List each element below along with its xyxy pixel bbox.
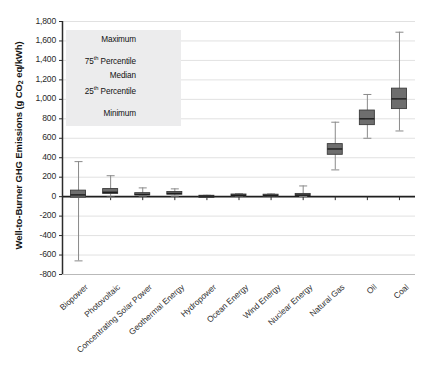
boxplot-nuclear-energy[interactable]	[295, 185, 310, 196]
boxplot-figure: Well-to-Burner GHG Emissions (g CO2 eq/k…	[0, 0, 423, 374]
legend-row-25th-percentile: 25th Percentile	[68, 85, 136, 96]
legend-row-minimum: Minimum	[68, 109, 136, 118]
boxplot-biopower[interactable]	[71, 161, 86, 261]
legend-row-median: Median	[68, 71, 136, 80]
box-rect	[71, 190, 86, 197]
boxplot-hydropower[interactable]	[199, 195, 214, 198]
boxplot-concentrating-solar-power[interactable]	[135, 187, 150, 196]
y-tick-label: -400	[22, 230, 56, 240]
y-tick-label: 400	[22, 152, 56, 162]
boxplot-wind-energy[interactable]	[263, 193, 278, 196]
boxplot-oil[interactable]	[359, 94, 374, 138]
y-tick-label: 1,400	[22, 54, 56, 64]
y-tick-label: 1,000	[22, 93, 56, 103]
legend-row-maximum: Maximum	[68, 35, 136, 44]
boxplot-ocean-energy[interactable]	[231, 193, 246, 196]
boxplot-photovoltaic[interactable]	[103, 175, 118, 197]
y-tick-label: 600	[22, 132, 56, 142]
y-tick-label: 1,800	[22, 16, 56, 26]
y-tick-label: -800	[22, 269, 56, 279]
y-tick-label: -200	[22, 210, 56, 220]
y-tick-label: -600	[22, 249, 56, 259]
y-tick-label: 0	[22, 191, 56, 201]
y-tick-label: 200	[22, 171, 56, 181]
y-tick-label: 1,600	[22, 35, 56, 45]
boxplot-geothermal-energy[interactable]	[167, 188, 182, 196]
legend-row-75th-percentile: 75th Percentile	[68, 55, 136, 66]
boxplot-natural-gas[interactable]	[327, 122, 342, 170]
boxplot-coal[interactable]	[391, 32, 406, 131]
box-rect	[359, 110, 374, 125]
y-tick-label: 1,200	[22, 74, 56, 84]
y-tick-label: 800	[22, 113, 56, 123]
